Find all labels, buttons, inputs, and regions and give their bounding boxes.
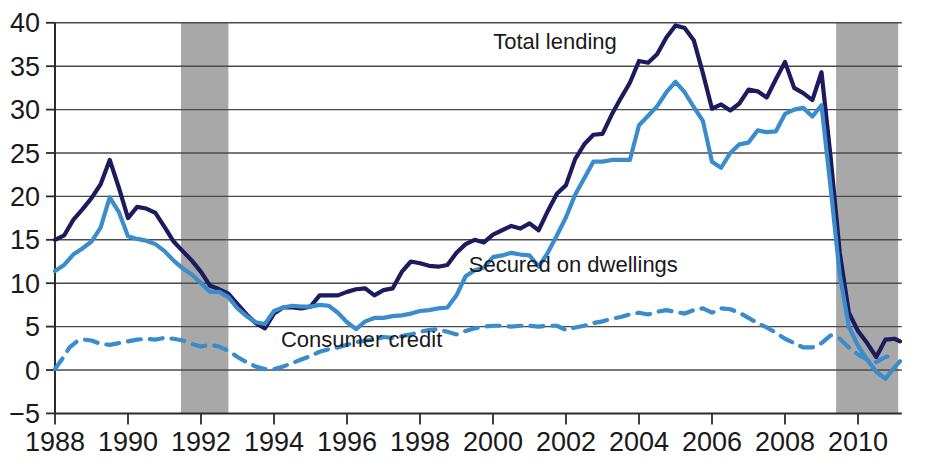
x-tick-label-1998: 1998 (390, 427, 450, 457)
secured-on-dwellings-label: Secured on dwellings (469, 252, 678, 277)
x-tick-label-2010: 2010 (828, 427, 888, 457)
recession-band-2 (836, 23, 898, 414)
x-tick-label-1992: 1992 (171, 427, 231, 457)
y-tick-label-25: 25 (10, 139, 40, 169)
x-tick-label-2002: 2002 (536, 427, 596, 457)
series-annotations: Total lendingSecured on dwellingsConsume… (281, 29, 678, 353)
total-lending-label: Total lending (493, 29, 617, 54)
y-tick-label-0: 0 (25, 356, 40, 386)
y-tick-label-20: 20 (10, 182, 40, 212)
y-tick-label-15: 15 (10, 225, 40, 255)
x-tick-label-2000: 2000 (463, 427, 523, 457)
y-tick-label-30: 30 (10, 95, 40, 125)
recession-band-1 (181, 23, 228, 414)
lending-growth-chart: Total lendingSecured on dwellingsConsume… (0, 0, 927, 465)
x-axis (55, 413, 858, 424)
y-axis (46, 23, 55, 414)
y-tick-label--5: −5 (9, 399, 40, 429)
y-tick-label-10: 10 (10, 269, 40, 299)
x-tick-label-1994: 1994 (244, 427, 304, 457)
y-tick-labels: −50510152025303540 (9, 8, 40, 429)
y-tick-label-40: 40 (10, 8, 40, 38)
y-tick-label-35: 35 (10, 52, 40, 82)
x-tick-labels: 1988199019921994199619982000200220042006… (25, 427, 888, 457)
x-tick-label-1988: 1988 (25, 427, 85, 457)
x-tick-label-2008: 2008 (755, 427, 815, 457)
x-tick-label-2006: 2006 (682, 427, 742, 457)
y-tick-label-5: 5 (25, 312, 40, 342)
x-tick-label-1990: 1990 (98, 427, 158, 457)
x-tick-label-2004: 2004 (609, 427, 669, 457)
x-tick-label-1996: 1996 (317, 427, 377, 457)
consumer-credit-label: Consumer credit (281, 327, 442, 352)
chart-canvas: Total lendingSecured on dwellingsConsume… (0, 0, 927, 465)
